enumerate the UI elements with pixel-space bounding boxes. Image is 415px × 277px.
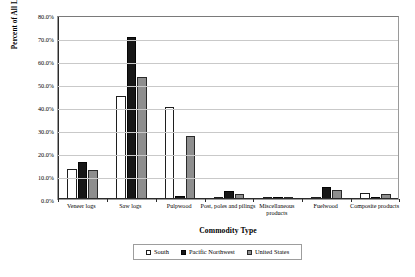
chart-legend: SouthPacific NorthwestUnited States: [133, 244, 302, 260]
x-axis-category-labels: Veneer logsSaw logsPulpwoodPost, poles a…: [57, 203, 399, 225]
legend-swatch-icon: [146, 250, 151, 255]
legend-item[interactable]: South: [146, 248, 169, 256]
bar: [137, 77, 147, 199]
gridline: [58, 132, 398, 133]
y-axis-title: Percent of All Logs: [9, 0, 21, 74]
y-axis-tick-labels: 80.0%70.0%60.0%50.0%40.0%30.0%20.0%10.0%…: [22, 0, 54, 277]
bar: [78, 162, 88, 199]
x-axis-tick: [399, 199, 400, 202]
y-tick-label: 60.0%: [22, 59, 54, 66]
bar-group: [253, 17, 302, 199]
legend-item[interactable]: United States: [247, 248, 289, 256]
legend-label: United States: [255, 248, 289, 256]
legend-label: Pacific Northwest: [189, 248, 235, 256]
gridline: [58, 63, 398, 64]
y-tick-label: 0.0%: [22, 197, 54, 204]
bar-group: [351, 17, 400, 199]
bar-group: [156, 17, 205, 199]
y-tick-label: 50.0%: [22, 82, 54, 89]
gridline: [58, 40, 398, 41]
bar: [165, 107, 175, 199]
plot-area: [57, 16, 399, 200]
bar: [186, 136, 196, 199]
bar-group: [302, 17, 351, 199]
gridline: [58, 155, 398, 156]
bar-group: [107, 17, 156, 199]
legend-item[interactable]: Pacific Northwest: [181, 248, 235, 256]
x-axis-tick: [58, 199, 59, 202]
y-axis-line: [58, 17, 59, 199]
gridline: [58, 86, 398, 87]
y-tick-label: 30.0%: [22, 128, 54, 135]
legend-swatch-icon: [181, 250, 186, 255]
x-axis-tick: [156, 199, 157, 202]
bar-group: [58, 17, 107, 199]
x-axis-tick: [205, 199, 206, 202]
bar-groups: [58, 17, 398, 199]
bar: [88, 170, 98, 199]
x-axis-tick: [107, 199, 108, 202]
gridline: [58, 178, 398, 179]
bar: [116, 96, 126, 200]
x-axis-title: Commodity Type: [57, 226, 399, 235]
bar-group: [205, 17, 254, 199]
x-axis-tick: [253, 199, 254, 202]
bar: [67, 169, 77, 199]
legend-swatch-icon: [247, 250, 252, 255]
x-axis-tick: [351, 199, 352, 202]
y-tick-label: 20.0%: [22, 151, 54, 158]
y-tick-label: 70.0%: [22, 36, 54, 43]
x-axis-label: Composite products: [346, 203, 403, 210]
gridline: [58, 109, 398, 110]
x-axis-line: [58, 198, 398, 199]
bar: [127, 37, 137, 199]
y-tick-label: 10.0%: [22, 174, 54, 181]
legend-label: South: [154, 248, 169, 256]
x-axis-tick: [302, 199, 303, 202]
y-tick-label: 80.0%: [22, 13, 54, 20]
y-tick-label: 40.0%: [22, 105, 54, 112]
bar-chart: Percent of All Logs 80.0%70.0%60.0%50.0%…: [0, 0, 415, 277]
